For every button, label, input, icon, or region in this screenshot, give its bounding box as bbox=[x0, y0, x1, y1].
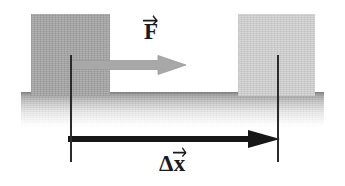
force-symbol-group: F bbox=[144, 20, 158, 43]
reference-line-end bbox=[277, 55, 279, 162]
physics-force-displacement-diagram: F Δ x bbox=[0, 0, 345, 186]
displacement-symbol-group: x bbox=[174, 152, 186, 175]
displacement-vector-label: Δ x bbox=[159, 152, 185, 175]
force-vector-arrow-overbar bbox=[143, 13, 161, 25]
reference-line-start bbox=[70, 55, 72, 162]
displacement-vector-arrow-overbar bbox=[173, 145, 189, 157]
force-vector-arrow bbox=[70, 54, 186, 76]
delta-symbol: Δ bbox=[159, 151, 174, 176]
force-vector-label: F bbox=[144, 20, 158, 43]
